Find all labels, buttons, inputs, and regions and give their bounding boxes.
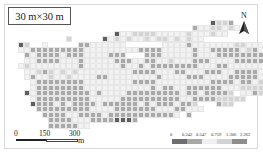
legend-break-5: 2.362 [240, 132, 250, 137]
scale-bar: 0 150 300 m [14, 129, 94, 145]
grid-cell [240, 96, 246, 102]
legend: 0 0.242 0.547 0.759 1.306 2.362 [170, 132, 252, 146]
scale-tick-150: 150 [39, 129, 50, 138]
scale-bar-light-segment [46, 139, 78, 142]
grid-cell [132, 117, 138, 123]
legend-swatch-2 [187, 139, 202, 144]
legend-swatch-3 [202, 139, 217, 144]
north-arrow-icon [238, 21, 250, 34]
legend-break-3: 0.759 [211, 132, 221, 137]
legend-swatch-4 [217, 139, 232, 144]
grid-cell [222, 31, 228, 37]
grid-cell [174, 112, 180, 118]
grid-cell [258, 90, 263, 96]
grid-cell [198, 106, 204, 112]
scale-bar-dark-segment [16, 139, 46, 141]
legend-break-0: 0 [170, 132, 172, 137]
north-arrow: N [238, 12, 250, 34]
scale-unit: m [78, 136, 84, 145]
scale-tick-0: 0 [14, 129, 18, 138]
legend-break-4: 1.306 [226, 132, 236, 137]
grid-cell [84, 123, 90, 129]
legend-swatch-5 [232, 139, 247, 144]
grid-cell [186, 112, 192, 118]
grid-cell [228, 101, 234, 107]
legend-swatch-1 [172, 139, 187, 144]
north-label: N [238, 12, 250, 20]
map-title: 30 m×30 m [8, 7, 71, 25]
grid-cell [66, 36, 72, 42]
legend-break-1: 0.242 [182, 132, 192, 137]
legend-break-2: 0.547 [196, 132, 206, 137]
